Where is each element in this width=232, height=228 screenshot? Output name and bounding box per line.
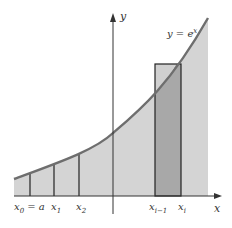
label-xi-minus-1: xi−1 (149, 201, 167, 215)
x-axis-arrow-icon (214, 193, 222, 199)
function-label: y = ex (166, 27, 197, 39)
label-x2: x2 (76, 201, 87, 215)
label-xi: xi (178, 201, 186, 215)
label-x1: x1 (51, 201, 61, 215)
y-axis-arrow-icon (110, 13, 116, 22)
riemann-sum-diagram: y x y = ex x0 = a x1 x2 xi−1 xi (0, 0, 232, 228)
y-axis-label: y (119, 10, 127, 23)
label-x0-equals-a: x0 = a (14, 201, 45, 215)
x-axis-label: x (214, 202, 221, 215)
